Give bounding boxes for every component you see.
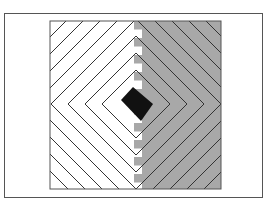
- log-cabin-block: [0, 0, 274, 210]
- light-half: [50, 21, 136, 189]
